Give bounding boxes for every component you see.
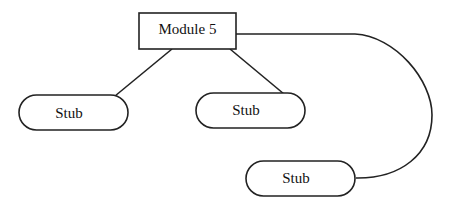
stub-3-label: Stub xyxy=(246,171,346,186)
stub-2-label: Stub xyxy=(196,103,296,118)
edge-module-to-stub-2 xyxy=(230,49,284,94)
stub-1-label: Stub xyxy=(19,106,119,121)
edge-module-to-stub-1 xyxy=(115,49,172,96)
module-5-label: Module 5 xyxy=(139,22,236,37)
